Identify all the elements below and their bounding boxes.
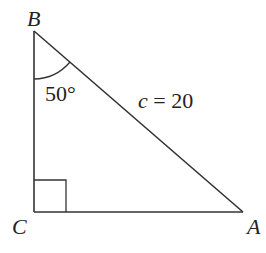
vertex-label-b: B (27, 6, 40, 31)
right-angle-marker (34, 180, 66, 212)
hypotenuse-label: c = 20 (138, 88, 193, 113)
vertex-label-a: A (245, 214, 261, 239)
triangle-diagram: B C A 50° c = 20 (0, 0, 266, 253)
vertex-label-c: C (12, 214, 27, 239)
angle-label: 50° (45, 81, 76, 106)
hypotenuse-var: c (138, 88, 148, 113)
hypotenuse-value: = 20 (148, 88, 193, 113)
angle-arc-b (34, 62, 70, 79)
